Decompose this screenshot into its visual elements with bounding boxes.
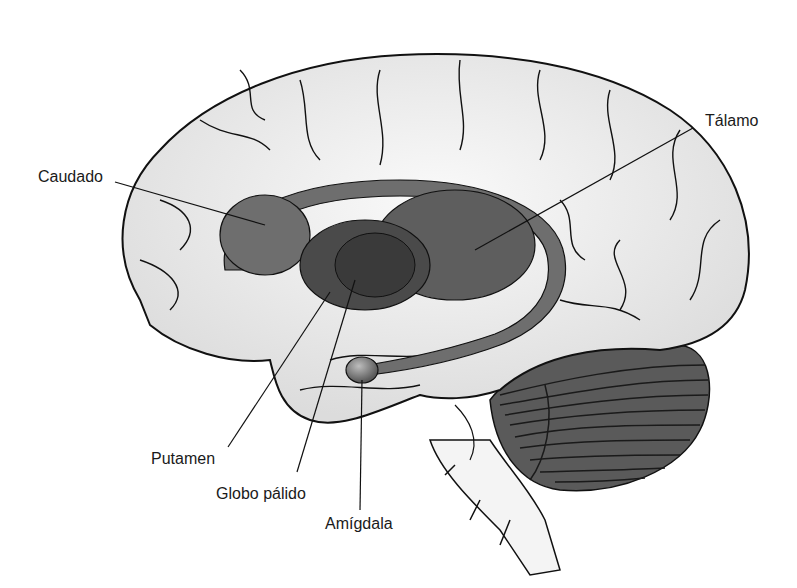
label-talamo: Tálamo [705,112,758,130]
label-caudado: Caudado [38,168,103,186]
label-putamen: Putamen [151,450,215,468]
amygdala [346,357,378,383]
globus-pallidus [335,233,415,297]
brain-diagram: Caudado Tálamo Putamen Globo pálido Amíg… [0,0,797,588]
label-globo-palido: Globo pálido [216,485,306,503]
label-amigdala: Amígdala [325,515,393,533]
